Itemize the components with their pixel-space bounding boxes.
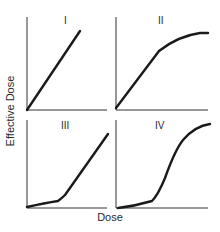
panel-iii-axes (27, 120, 107, 208)
panel-iv-axes (116, 120, 208, 208)
curve-i (27, 31, 80, 110)
curve-ii (116, 33, 208, 108)
panel-label-i: I (64, 15, 67, 26)
panel-label-ii: II (158, 15, 164, 26)
curve-iii (27, 134, 108, 207)
panel-label-iv: IV (155, 120, 164, 131)
y-axis-label: Effective Dose (4, 66, 18, 156)
curve-iv (118, 124, 210, 208)
panel-i-axes (27, 17, 107, 110)
panel-label-iii: III (61, 120, 69, 131)
x-axis-label: Dose (95, 211, 125, 223)
chart-figure (0, 0, 220, 232)
panel-ii-axes (116, 17, 208, 110)
